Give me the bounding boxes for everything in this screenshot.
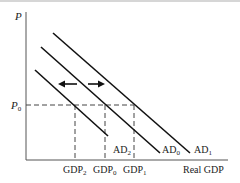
ad2-label: AD2 [113,144,131,157]
p0-label: P0 [10,99,22,113]
ad1-label: AD1 [194,144,212,157]
ad1-curve [53,33,190,153]
ad2-curve [35,70,108,136]
y-axis-label: P [14,10,22,22]
gdp2-tick-label: GDP2 [63,164,87,177]
gdp0-tick-label: GDP0 [93,164,117,177]
ad-shift-diagram: P P0 GDP2 GDP0 GDP1 Real GDP AD2 AD0 AD1 [0,0,240,183]
ad0-label: AD0 [162,144,180,157]
right-shift-arrow-icon [88,81,105,88]
left-shift-arrow-icon [58,81,77,88]
ad0-curve [41,47,160,153]
gdp1-tick-label: GDP1 [123,164,147,177]
x-axis-label: Real GDP [183,164,224,175]
